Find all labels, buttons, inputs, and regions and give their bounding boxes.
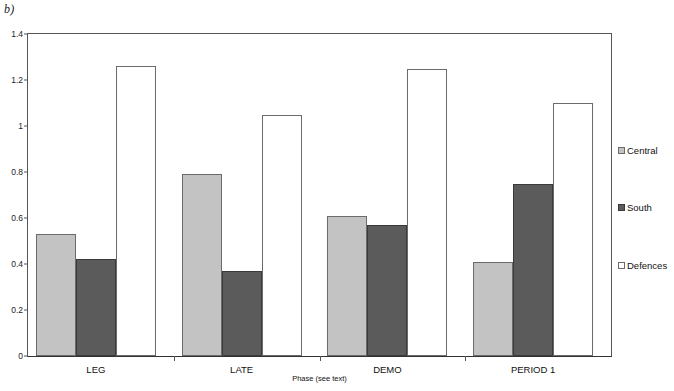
plot-area: 00.20.40.60.811.21.4 LEGLATEDEMOPERIOD 1 xyxy=(27,33,612,357)
y-axis-tick-mark xyxy=(24,218,28,219)
legend-label: Defences xyxy=(627,260,667,271)
bar xyxy=(76,259,116,356)
legend-item: South xyxy=(618,202,652,213)
y-axis-tick-label: 1 xyxy=(18,121,23,131)
bar xyxy=(262,115,302,357)
legend-label: Central xyxy=(627,145,658,156)
y-axis-tick-mark xyxy=(24,126,28,127)
y-axis-tick-mark xyxy=(24,264,28,265)
panel-letter-label: b) xyxy=(4,2,14,17)
legend-swatch-icon xyxy=(618,147,625,154)
bar xyxy=(553,103,593,356)
y-axis-tick-label: 1.4 xyxy=(11,29,23,39)
bar xyxy=(367,225,407,356)
bar xyxy=(513,184,553,357)
x-axis-tick-mark xyxy=(320,356,321,361)
y-axis-tick-label: 0 xyxy=(18,351,23,361)
bar xyxy=(407,69,447,357)
y-axis-tick-mark xyxy=(24,34,28,35)
y-axis-tick-label: 0.4 xyxy=(11,259,23,269)
legend-item: Central xyxy=(618,145,658,156)
bar xyxy=(116,66,156,356)
bar xyxy=(327,216,367,356)
legend-label: South xyxy=(627,202,652,213)
y-axis-tick-label: 0.2 xyxy=(11,305,23,315)
x-axis-tick-mark xyxy=(174,356,175,361)
legend-swatch-icon xyxy=(618,204,625,211)
legend-swatch-icon xyxy=(618,262,625,269)
y-axis-tick-label: 0.8 xyxy=(11,167,23,177)
bar xyxy=(222,271,262,356)
y-axis-tick-mark xyxy=(24,356,28,357)
y-axis-tick-label: 0.6 xyxy=(11,213,23,223)
legend-item: Defences xyxy=(618,260,667,271)
figure-root: b) 00.20.40.60.811.21.4 LEGLATEDEMOPERIO… xyxy=(0,0,674,391)
bar xyxy=(182,174,222,356)
y-axis-tick-mark xyxy=(24,80,28,81)
x-axis-tick-mark xyxy=(465,356,466,361)
y-axis-tick-mark xyxy=(24,310,28,311)
x-axis-title: Phase (see text) xyxy=(27,374,612,383)
y-axis-tick-label: 1.2 xyxy=(11,75,23,85)
bar xyxy=(473,262,513,356)
y-axis-tick-mark xyxy=(24,172,28,173)
bar xyxy=(36,234,76,356)
